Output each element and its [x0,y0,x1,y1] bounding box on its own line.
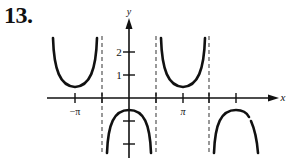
y-tick-label-1: 1 [116,69,122,81]
y-axis-arrow-icon [126,18,133,29]
branch-up-pi [161,38,205,87]
x-axis-arrow-icon [268,95,279,102]
branch-up-neg-pi [53,38,97,87]
y-axis: 2 1 y [116,6,135,158]
x-axis-label: x [280,91,286,103]
x-tick-label-neg-pi: −π [70,106,81,117]
branch-down-two-pi-right [251,121,258,153]
x-tick-label-pi: π [180,106,186,117]
x-axis: −π π x [47,91,286,117]
secant-graph: −π π x 2 1 y [0,0,295,167]
y-tick-label-2: 2 [116,46,122,58]
branch-down-two-pi-left [214,110,249,153]
y-axis-label: y [126,6,132,17]
